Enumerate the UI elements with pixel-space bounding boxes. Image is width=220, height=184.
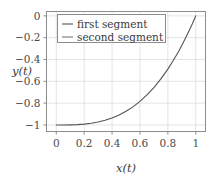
chart-plot-area: 00.20.40.60.81 0−0.2−0.4−0.6−0.8−1 x(t) … xyxy=(0,0,220,184)
x-tick-label: 0.8 xyxy=(159,137,176,149)
y-axis-title: y(t) xyxy=(11,64,32,78)
x-tick-label: 0.6 xyxy=(132,137,149,149)
x-tick-label: 1 xyxy=(192,137,199,149)
y-tick-label: −0.2 xyxy=(15,31,41,43)
y-tick-label: 0 xyxy=(34,10,41,22)
chart-legend[interactable]: first segmentsecond segment xyxy=(58,15,166,43)
legend-label[interactable]: second segment xyxy=(77,31,164,43)
y-tick-label: −0.8 xyxy=(15,97,41,109)
legend-label[interactable]: first segment xyxy=(77,18,148,30)
x-tick-label: 0 xyxy=(53,137,60,149)
chart-figure: 00.20.40.60.81 0−0.2−0.4−0.6−0.8−1 x(t) … xyxy=(0,0,220,184)
x-tick-label: 0.2 xyxy=(76,137,93,149)
y-tick-label: −1 xyxy=(25,119,40,131)
x-tick-label: 0.4 xyxy=(104,137,121,149)
x-axis-title: x(t) xyxy=(116,161,136,175)
